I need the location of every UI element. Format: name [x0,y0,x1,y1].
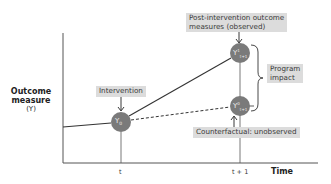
node-y1-label: Y1t+1 [233,47,247,61]
counterfactual-arrow-icon [231,116,237,127]
intervention-arrow-icon [118,97,124,111]
counterfactual-label: Counterfactual: unobserved [193,127,300,138]
node-y0-label: Y0 [115,117,122,129]
baseline-trend-line [63,123,111,127]
x-tick-t: t [119,168,122,176]
y-axis-title: Outcome measure (Y) [6,87,56,114]
node-y0cf-label: Y0t+1 [233,100,247,114]
observed-arrow-icon [236,31,242,43]
intervention-label: Intervention [96,86,146,97]
x-axis-title: Time [271,167,293,176]
program-impact-brace-icon [251,45,263,111]
program-impact-label: Program impact [267,64,303,83]
post-intervention-label: Post-intervention outcome measures (obse… [186,13,287,32]
counterfactual-trend-line [131,107,230,120]
x-tick-t1: t + 1 [232,168,248,176]
